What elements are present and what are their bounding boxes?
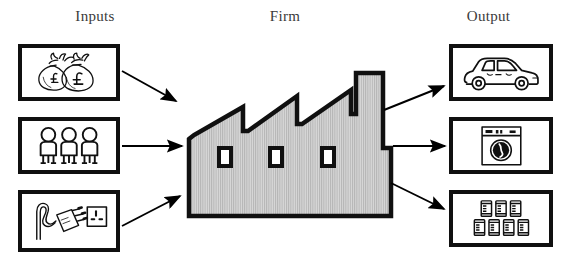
input-box-power[interactable] <box>18 190 120 252</box>
plug-and-socket-icon <box>22 194 116 248</box>
column-label-inputs: Inputs <box>0 8 190 25</box>
money-bags-icon <box>22 48 116 97</box>
output-box-cans[interactable] <box>449 190 553 247</box>
arrow-power-to-firm <box>122 196 180 226</box>
washing-machine-icon <box>453 121 549 170</box>
people-icon <box>22 121 116 170</box>
output-box-car[interactable] <box>449 44 553 101</box>
arrow-firm-to-cans <box>391 183 444 209</box>
arrow-firm-to-car <box>384 86 444 110</box>
column-label-firm: Firm <box>200 8 370 25</box>
car-icon <box>453 48 549 97</box>
factory-windows <box>219 148 334 166</box>
input-box-labour[interactable] <box>18 117 120 174</box>
arrow-money-to-firm <box>122 71 176 101</box>
column-label-output: Output <box>410 8 567 25</box>
factory-icon[interactable] <box>189 73 391 216</box>
input-box-money[interactable] <box>18 44 120 101</box>
production-process-diagram: Inputs Firm Output <box>0 0 567 261</box>
output-box-washing-machine[interactable] <box>449 117 553 174</box>
cans-icon <box>453 194 549 243</box>
